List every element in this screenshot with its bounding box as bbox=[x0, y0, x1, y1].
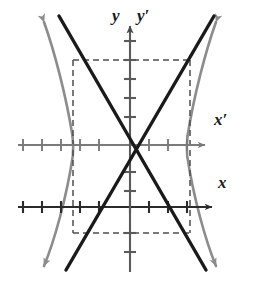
asymptote-negative-slope bbox=[59, 16, 206, 270]
x-prime-axis-label: x′ bbox=[214, 110, 227, 130]
asymptote-positive-slope bbox=[66, 16, 214, 270]
y-axis-label: y bbox=[112, 6, 120, 26]
x-axis-label: x bbox=[218, 173, 227, 193]
x-axis bbox=[18, 201, 212, 213]
x-prime-axis bbox=[18, 139, 205, 151]
y-prime-axis-label: y′ bbox=[137, 6, 149, 26]
hyperbola-left-branch bbox=[44, 22, 73, 136]
hyperbola-figure bbox=[0, 0, 265, 284]
hyperbola-left-branch-lower bbox=[44, 136, 73, 266]
